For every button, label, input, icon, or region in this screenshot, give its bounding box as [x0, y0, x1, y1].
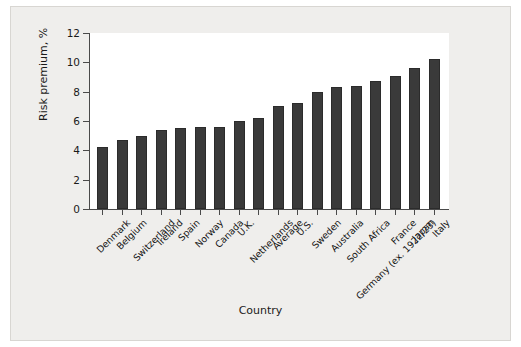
x-tick-mark — [414, 209, 415, 215]
bar-slot — [152, 33, 172, 209]
bar — [156, 130, 167, 209]
y-tick-label: 0 — [73, 203, 80, 215]
bar-slot — [327, 33, 347, 209]
bar — [234, 121, 245, 209]
bar — [214, 127, 225, 209]
bar — [253, 118, 264, 209]
bar — [312, 92, 323, 209]
bar-slot — [269, 33, 289, 209]
x-tick — [386, 209, 406, 215]
x-axis-title: Country — [11, 304, 510, 317]
bar — [429, 59, 440, 209]
x-tick — [93, 209, 113, 215]
x-tick-mark — [395, 209, 396, 215]
bar — [351, 86, 362, 209]
bar-slot — [288, 33, 308, 209]
bar-slot — [171, 33, 191, 209]
bar — [175, 128, 186, 209]
y-tick-label: 10 — [67, 56, 80, 68]
x-tick-mark — [141, 209, 142, 215]
bar-slot — [308, 33, 328, 209]
x-tick — [191, 209, 211, 215]
bar — [117, 140, 128, 209]
bar-slot — [191, 33, 211, 209]
x-tick — [152, 209, 172, 215]
bar — [331, 87, 342, 209]
x-tick-mark — [278, 209, 279, 215]
x-tick-mark — [122, 209, 123, 215]
y-tick-label: 12 — [67, 27, 80, 39]
x-axis-ticks — [89, 209, 448, 215]
bar-slot — [386, 33, 406, 209]
x-tick-mark — [200, 209, 201, 215]
bar — [390, 76, 401, 209]
bar — [97, 147, 108, 209]
x-tick — [269, 209, 289, 215]
y-tick-label: 4 — [73, 144, 80, 156]
x-tick — [347, 209, 367, 215]
bar-slot — [366, 33, 386, 209]
y-tick-label: 8 — [73, 86, 80, 98]
x-tick-mark — [161, 209, 162, 215]
y-tick-label: 2 — [73, 174, 80, 186]
x-tick-mark — [317, 209, 318, 215]
x-tick-mark — [434, 209, 435, 215]
bar — [273, 106, 284, 209]
bar — [292, 103, 303, 209]
bar-slot — [425, 33, 445, 209]
bar-slot — [132, 33, 152, 209]
x-tick-mark — [336, 209, 337, 215]
bar-slot — [210, 33, 230, 209]
y-axis-title: Risk premium, % — [37, 28, 50, 121]
bar-slot — [405, 33, 425, 209]
bar — [409, 68, 420, 209]
bar-slot — [347, 33, 367, 209]
x-tick — [249, 209, 269, 215]
x-tick-mark — [239, 209, 240, 215]
x-tick-mark — [219, 209, 220, 215]
x-tick-mark — [180, 209, 181, 215]
x-tick — [171, 209, 191, 215]
y-tick-label: 6 — [73, 115, 80, 127]
x-tick-mark — [297, 209, 298, 215]
x-tick-mark — [356, 209, 357, 215]
x-tick — [210, 209, 230, 215]
bar-slot — [230, 33, 250, 209]
x-tick — [132, 209, 152, 215]
x-tick — [288, 209, 308, 215]
x-tick — [405, 209, 425, 215]
bar — [136, 136, 147, 209]
x-tick — [230, 209, 250, 215]
bar-slot — [249, 33, 269, 209]
bar-series — [89, 33, 448, 209]
x-tick — [425, 209, 445, 215]
x-tick — [113, 209, 133, 215]
x-tick — [366, 209, 386, 215]
x-tick — [308, 209, 328, 215]
x-tick-mark — [102, 209, 103, 215]
x-tick-mark — [375, 209, 376, 215]
x-tick — [327, 209, 347, 215]
bar — [370, 81, 381, 209]
chart-figure: Risk premium, % 024681012 DenmarkBelgium… — [10, 6, 511, 341]
bar-slot — [113, 33, 133, 209]
bar — [195, 127, 206, 209]
x-tick-mark — [258, 209, 259, 215]
bar-slot — [93, 33, 113, 209]
